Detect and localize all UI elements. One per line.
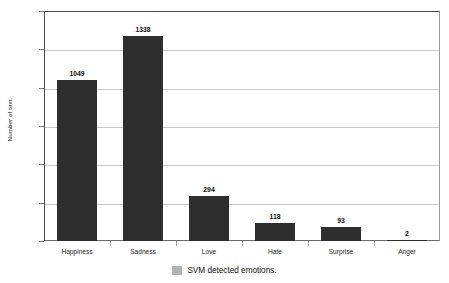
bars-layer: 10491338294118932 — [44, 11, 440, 241]
y-axis-title: Number of text. — [6, 85, 13, 155]
bar-slot: 1049 — [44, 11, 110, 241]
bar-value-label: 294 — [203, 186, 214, 193]
bar-value-label: 2 — [405, 230, 409, 237]
bar-slot: 93 — [308, 11, 374, 241]
bar-value-label: 93 — [337, 217, 345, 224]
bar[interactable] — [255, 223, 295, 241]
bar-slot: 2 — [374, 11, 440, 241]
legend-label: SVM detected emotions. — [187, 266, 276, 275]
bar[interactable] — [57, 80, 97, 241]
bar[interactable] — [387, 240, 427, 241]
x-tick-mark — [374, 241, 375, 246]
x-tick-mark — [176, 241, 177, 246]
x-tick-mark — [110, 241, 111, 246]
x-tick-mark — [308, 241, 309, 246]
legend-swatch-icon — [172, 266, 182, 275]
bar-slot: 118 — [242, 11, 308, 241]
bar-value-label: 1338 — [135, 26, 150, 33]
bar[interactable] — [321, 227, 361, 241]
y-tick-mark — [39, 241, 44, 242]
chart-legend: SVM detected emotions. — [0, 266, 449, 275]
bar-value-label: 1049 — [69, 70, 84, 77]
bar-value-label: 118 — [270, 213, 281, 220]
x-tick-mark — [242, 241, 243, 246]
x-tick-label: Anger — [367, 248, 447, 255]
bar-slot: 1338 — [110, 11, 176, 241]
bar[interactable] — [123, 36, 163, 241]
bar-slot: 294 — [176, 11, 242, 241]
bar[interactable] — [189, 196, 229, 241]
bar-chart: Number of text. 0250500750100012501500 1… — [0, 0, 449, 283]
